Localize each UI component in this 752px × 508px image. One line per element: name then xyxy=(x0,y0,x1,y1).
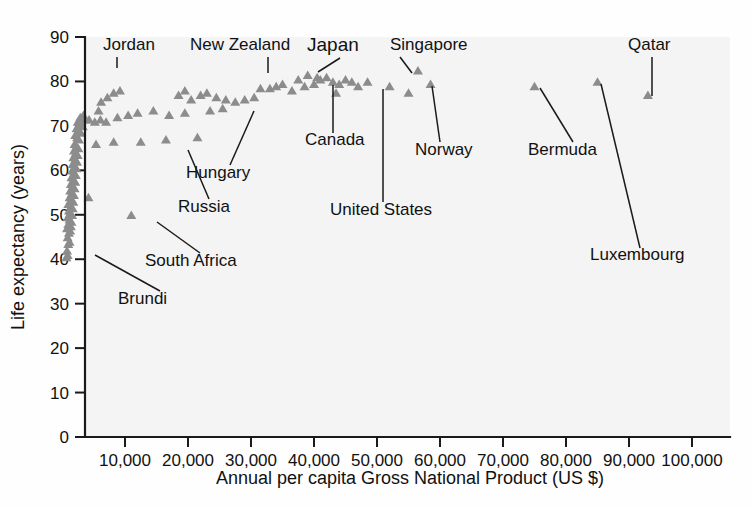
annotation-label: Bermuda xyxy=(528,140,598,159)
annotation-label: Canada xyxy=(305,130,365,149)
scatter-plot: 010203040506070809010,00020,00030,00040,… xyxy=(0,0,752,508)
annotation-label: United States xyxy=(330,200,432,219)
x-tick-label: 10,000 xyxy=(99,451,151,470)
x-tick-label: 90,000 xyxy=(603,451,655,470)
x-tick-label: 100,000 xyxy=(661,451,722,470)
y-tick-label: 10 xyxy=(50,384,69,403)
annotation-label: South Africa xyxy=(145,251,237,270)
annotation-label: Singapore xyxy=(390,35,468,54)
annotation-label: Luxembourg xyxy=(590,245,685,264)
y-tick-label: 0 xyxy=(60,428,69,447)
annotation-label: Qatar xyxy=(628,35,671,54)
y-tick-label: 90 xyxy=(50,28,69,47)
y-tick-label: 30 xyxy=(50,295,69,314)
chart-page: 010203040506070809010,00020,00030,00040,… xyxy=(0,0,752,508)
y-tick-label: 20 xyxy=(50,339,69,358)
y-tick-label: 80 xyxy=(50,72,69,91)
y-tick-label: 60 xyxy=(50,161,69,180)
y-tick-label: 70 xyxy=(50,117,69,136)
annotation-label: Hungary xyxy=(186,163,251,182)
annotation-label: Brundi xyxy=(118,289,167,308)
annotation-label: Norway xyxy=(415,140,473,159)
x-axis-title: Annual per capita Gross National Product… xyxy=(216,468,604,488)
annotation-label: Japan xyxy=(307,34,359,55)
y-axis-title: Life expectancy (years) xyxy=(8,144,28,330)
x-tick-label: 20,000 xyxy=(162,451,214,470)
annotation-label: New Zealand xyxy=(190,35,290,54)
annotation-label: Jordan xyxy=(103,35,155,54)
annotation-label: Russia xyxy=(178,197,231,216)
